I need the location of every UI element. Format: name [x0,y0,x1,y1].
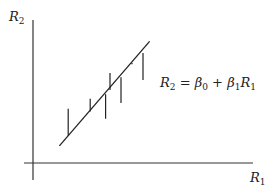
regression-equation: R2 = β0 + β1R1 [159,75,256,92]
y-axis-label: R2 [8,9,25,26]
regression-diagram: R2 R1 R2 = β0 + β1R1 [0,0,275,192]
regression-line [59,41,149,145]
x-axis-label: R1 [249,170,266,187]
